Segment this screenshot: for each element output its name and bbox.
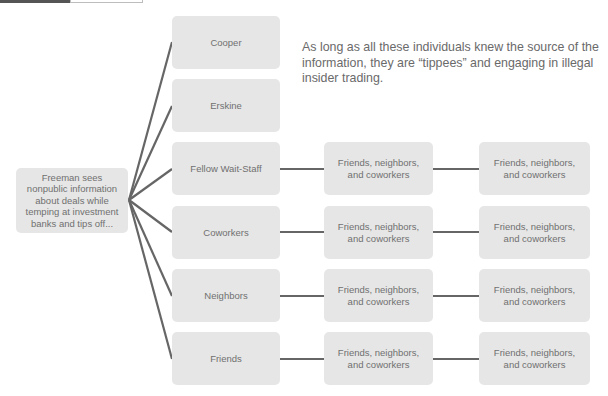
tippee-node-erskine: Erskine [172, 79, 280, 132]
second-tier-node: Friends, neighbors, and coworkers [324, 332, 433, 385]
second-tier-label: Friends, neighbors, and coworkers [330, 157, 427, 180]
tippee-label: Erskine [210, 100, 242, 112]
tippee-node-coworkers: Coworkers [172, 206, 280, 259]
second-tier-label: Friends, neighbors, and coworkers [330, 221, 427, 244]
second-tier-node: Friends, neighbors, and coworkers [324, 206, 433, 259]
tippee-node-fellow-wait-staff: Fellow Wait-Staff [172, 142, 280, 195]
tippee-node-neighbors: Neighbors [172, 269, 280, 322]
third-tier-label: Friends, neighbors, and coworkers [485, 157, 584, 180]
annotation-note: As long as all these individuals knew th… [302, 40, 602, 87]
second-tier-label: Friends, neighbors, and coworkers [330, 347, 427, 370]
tippee-label: Cooper [210, 37, 241, 49]
tippee-label: Neighbors [204, 290, 247, 302]
third-tier-node: Friends, neighbors, and coworkers [479, 269, 590, 322]
tippee-label: Friends [210, 353, 242, 365]
third-tier-label: Friends, neighbors, and coworkers [485, 221, 584, 244]
third-tier-node: Friends, neighbors, and coworkers [479, 142, 590, 195]
second-tier-label: Friends, neighbors, and coworkers [330, 284, 427, 307]
third-tier-node: Friends, neighbors, and coworkers [479, 332, 590, 385]
third-tier-node: Friends, neighbors, and coworkers [479, 206, 590, 259]
tippee-label: Coworkers [203, 227, 248, 239]
second-tier-node: Friends, neighbors, and coworkers [324, 142, 433, 195]
tippee-label: Fellow Wait-Staff [190, 163, 261, 175]
source-node-label: Freeman sees nonpublic information about… [22, 172, 122, 230]
third-tier-label: Friends, neighbors, and coworkers [485, 347, 584, 370]
tippee-node-cooper: Cooper [172, 16, 280, 69]
source-node-freeman: Freeman sees nonpublic information about… [16, 168, 128, 233]
second-tier-node: Friends, neighbors, and coworkers [324, 269, 433, 322]
third-tier-label: Friends, neighbors, and coworkers [485, 284, 584, 307]
tippee-node-friends: Friends [172, 332, 280, 385]
